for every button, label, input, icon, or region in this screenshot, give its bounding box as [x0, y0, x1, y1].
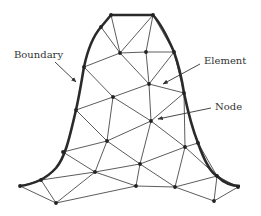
element-edge: [146, 15, 153, 52]
element-edge: [140, 121, 151, 164]
node-dot: [82, 65, 86, 69]
element-edge: [113, 84, 149, 97]
element-edge: [107, 141, 140, 164]
node-dot: [172, 50, 176, 54]
element-edge: [107, 121, 151, 141]
node-dot: [18, 184, 22, 188]
element-edge: [120, 53, 149, 84]
element-edge: [95, 164, 140, 172]
node-dot: [144, 50, 148, 54]
node-dot: [74, 108, 78, 112]
element-edge: [56, 186, 136, 203]
node-dot: [196, 141, 200, 145]
node-dot: [183, 145, 187, 149]
element-edge: [120, 15, 153, 53]
element-edge: [120, 52, 146, 53]
element-edge: [151, 121, 185, 147]
element-edge: [113, 97, 151, 121]
element-label: Element: [204, 56, 246, 66]
element-edge: [140, 147, 185, 164]
node-dot: [93, 170, 97, 174]
element-edge: [63, 141, 107, 152]
node-dot: [149, 119, 153, 123]
element-edge: [63, 152, 95, 172]
element-edge: [136, 164, 140, 186]
element-edge: [175, 147, 185, 187]
element-edge: [149, 84, 184, 93]
boundary-curve: [20, 15, 240, 186]
element-edge: [175, 176, 217, 187]
node-dot: [105, 139, 109, 143]
element-edge: [146, 52, 149, 84]
node-dot: [111, 95, 115, 99]
node-dot: [151, 13, 155, 17]
element-edge: [149, 84, 151, 121]
boundary-label: Boundary: [14, 50, 63, 60]
node-dot: [39, 178, 43, 182]
element-edge: [95, 172, 136, 186]
element-edge: [95, 141, 107, 172]
node-dot: [236, 185, 240, 189]
element-edge: [136, 186, 175, 187]
node-dot: [109, 13, 113, 17]
element-edge: [214, 187, 238, 201]
node-dot: [99, 25, 103, 29]
element-edge: [140, 164, 175, 187]
node-dot: [118, 51, 122, 55]
element-edge: [107, 97, 113, 141]
element-edge: [185, 143, 198, 147]
element-edge: [175, 187, 214, 201]
element-edge: [84, 67, 113, 97]
element-edge: [149, 52, 174, 84]
node-dot: [61, 150, 65, 154]
node-dot: [215, 174, 219, 178]
boundary-arrow: [55, 62, 76, 82]
node-dot: [182, 91, 186, 95]
node-dot: [134, 184, 138, 188]
node-label: Node: [215, 102, 242, 112]
element-edge: [84, 53, 120, 67]
node-dot: [147, 82, 151, 86]
element-edge: [214, 176, 217, 201]
node-dot: [212, 199, 216, 203]
element-edge: [76, 97, 113, 110]
node-dot: [173, 185, 177, 189]
node-dot: [138, 162, 142, 166]
node-dot: [54, 201, 58, 205]
element-edge: [76, 110, 107, 141]
